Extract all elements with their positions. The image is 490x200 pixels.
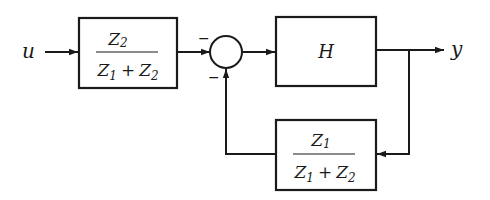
- fwd-den-a-sub: 1: [109, 69, 117, 83]
- plant-block-h: H: [276, 17, 376, 86]
- svg-text:Z1+Z2: Z1+Z2: [293, 162, 355, 185]
- feedback-gain-block: Z1 Z1+Z2: [276, 120, 376, 190]
- forward-gain-block: Z2 Z1+Z2: [79, 18, 177, 88]
- fb-num-sub: 1: [323, 137, 331, 151]
- output-label: y: [450, 37, 463, 61]
- sum-sign-bottom: −: [208, 69, 220, 85]
- sum-sign-top: −: [198, 30, 210, 46]
- svg-text:Z1+Z2: Z1+Z2: [96, 60, 158, 83]
- fb-den-b-sub: 2: [347, 171, 356, 185]
- input-label: u: [22, 39, 35, 63]
- summing-junction: [210, 36, 242, 68]
- plant-label: H: [317, 41, 334, 62]
- feedback-to-sum-arrow: [226, 69, 276, 154]
- fb-den-op: +: [318, 162, 332, 182]
- fwd-den-op: +: [121, 60, 135, 80]
- feedback-branch-arrow: [377, 50, 409, 154]
- fwd-num-sub: 2: [119, 36, 128, 50]
- fb-den-a-sub: 1: [306, 171, 314, 185]
- block-diagram: u Z2 Z1+Z2 − − H y Z1 Z1+Z2: [0, 0, 490, 200]
- fwd-den-b-sub: 2: [150, 69, 159, 83]
